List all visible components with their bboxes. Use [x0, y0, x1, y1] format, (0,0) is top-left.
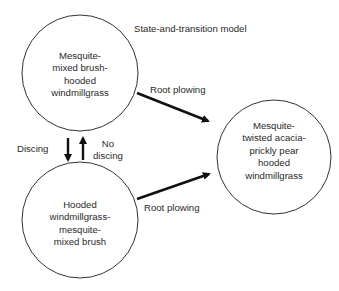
root-plowing-arrow-1: [137, 93, 208, 121]
transition-label-no-discing: No discing: [93, 138, 123, 163]
diagram-title: State-and-transition model: [134, 23, 264, 35]
state-1-label: Mesquite- mixed brush- hooded windmillgr…: [30, 50, 130, 100]
transition-label-root-plowing-1: Root plowing: [150, 84, 205, 96]
state-2-label: Hooded windmillgrass- mesquite- mixed br…: [30, 199, 130, 249]
state-3-label: Mesquite- twisted acacia- prickly pear h…: [224, 120, 324, 182]
transition-label-root-plowing-2: Root plowing: [144, 202, 199, 214]
transition-label-discing: Discing: [17, 143, 48, 155]
root-plowing-arrow-2: [137, 174, 209, 199]
